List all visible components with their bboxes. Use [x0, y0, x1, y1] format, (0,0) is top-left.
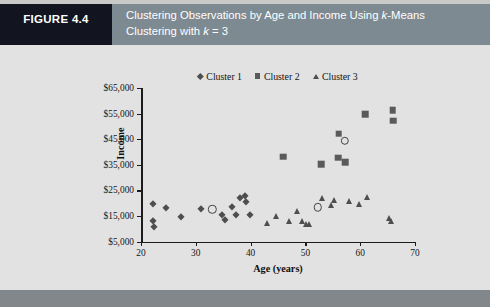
y-axis-line — [141, 88, 143, 243]
legend-label: Cluster 2 — [264, 71, 300, 82]
data-point-cluster-3 — [306, 221, 312, 227]
data-point-cluster-1 — [232, 211, 239, 218]
figure-number-label: FIGURE 4.4 — [0, 13, 112, 25]
x-axis-tick-label: 40 — [246, 248, 255, 258]
figure-page: FIGURE 4.4 Clustering Observations by Ag… — [0, 0, 490, 307]
y-axis-tick-label: $5,000 — [108, 237, 134, 247]
scatter-plot: Income Age (years) $5,000$15,000$25,000$… — [141, 88, 415, 243]
figure-title-line1-post: -Means — [387, 9, 425, 21]
y-axis-tick — [137, 165, 141, 166]
x-axis-tick-label: 60 — [356, 248, 365, 258]
data-point-cluster-2 — [389, 107, 396, 114]
data-point-cluster-1 — [228, 204, 235, 211]
legend-label: Cluster 3 — [322, 71, 358, 82]
data-point-cluster-2 — [318, 161, 325, 168]
x-axis-tick-label: 50 — [301, 248, 310, 258]
data-point-cluster-1 — [149, 200, 156, 207]
diamond-marker-icon — [197, 73, 203, 79]
y-axis-tick — [137, 216, 141, 217]
data-point-cluster-1 — [177, 213, 184, 220]
data-point-cluster-3 — [331, 197, 337, 203]
data-point-cluster-3 — [286, 218, 292, 224]
data-point-cluster-3 — [319, 195, 325, 201]
x-axis-tick-label: 70 — [410, 248, 419, 258]
square-marker-icon — [255, 73, 260, 78]
figure-title-line2-pre: Clustering with — [126, 25, 203, 37]
chart-legend: Cluster 1Cluster 2Cluster 3 — [141, 69, 415, 83]
data-point-cluster-3 — [388, 218, 394, 224]
data-point-cluster-1 — [163, 205, 170, 212]
y-axis-tick-label: $15,000 — [104, 211, 134, 221]
y-axis-tick-label: $35,000 — [104, 160, 134, 170]
figure-header: FIGURE 4.4 Clustering Observations by Ag… — [0, 4, 490, 45]
legend-entry: Cluster 3 — [313, 71, 358, 82]
triangle-marker-icon — [313, 74, 319, 79]
data-point-cluster-2 — [362, 111, 369, 118]
figure-title-band: Clustering Observations by Age and Incom… — [112, 4, 490, 45]
x-axis-tick — [141, 242, 142, 246]
data-point-cluster-3 — [346, 198, 352, 204]
data-point-cluster-1 — [246, 211, 253, 218]
data-point-cluster-3 — [364, 194, 370, 200]
y-axis-tick — [137, 190, 141, 191]
page-footer-strip — [0, 290, 490, 307]
x-axis-line — [141, 242, 415, 244]
data-point-cluster-3 — [356, 201, 362, 207]
data-point-centroids — [208, 205, 216, 213]
legend-label: Cluster 1 — [206, 71, 242, 82]
data-point-cluster-1 — [197, 205, 204, 212]
data-point-cluster-3 — [328, 202, 334, 208]
data-point-cluster-3 — [273, 213, 279, 219]
data-point-centroids — [314, 203, 322, 211]
data-point-cluster-2 — [335, 154, 342, 161]
figure-title-line2-post: = 3 — [209, 25, 228, 37]
x-axis-tick-label: 30 — [191, 248, 200, 258]
figure-canvas: Cluster 1Cluster 2Cluster 3 Income Age (… — [0, 45, 490, 290]
legend-entry: Cluster 2 — [255, 71, 300, 82]
data-point-cluster-2 — [280, 153, 287, 160]
figure-number-badge: FIGURE 4.4 — [0, 4, 112, 45]
data-point-cluster-1 — [150, 224, 157, 231]
data-point-cluster-2 — [390, 117, 397, 124]
data-point-cluster-3 — [264, 220, 270, 226]
y-axis-tick-label: $45,000 — [104, 134, 134, 144]
figure-title-line1-pre: Clustering Observations by Age and Incom… — [126, 9, 382, 21]
x-axis-title: Age (years) — [141, 263, 415, 274]
legend-entry: Cluster 1 — [198, 71, 242, 82]
data-point-centroids — [341, 137, 349, 145]
y-axis-tick-label: $65,000 — [104, 83, 134, 93]
data-point-cluster-2 — [336, 130, 343, 137]
x-axis-tick — [360, 242, 361, 246]
figure-title: Clustering Observations by Age and Incom… — [126, 8, 482, 39]
data-point-cluster-1 — [222, 217, 229, 224]
x-axis-tick-label: 20 — [136, 248, 145, 258]
x-axis-tick — [196, 242, 197, 246]
y-axis-tick-label: $55,000 — [104, 109, 134, 119]
y-axis-tick-label: $25,000 — [104, 185, 134, 195]
y-axis-tick — [137, 114, 141, 115]
data-point-cluster-3 — [294, 208, 300, 214]
data-point-cluster-1 — [242, 198, 249, 205]
y-axis-tick — [137, 139, 141, 140]
x-axis-tick — [415, 242, 416, 246]
data-point-cluster-2 — [342, 159, 349, 166]
x-axis-tick — [251, 242, 252, 246]
y-axis-tick — [137, 88, 141, 89]
x-axis-tick — [305, 242, 306, 246]
